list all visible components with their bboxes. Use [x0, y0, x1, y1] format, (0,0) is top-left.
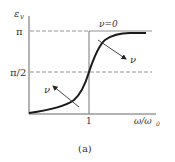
y-axis-label-sub: v: [20, 13, 24, 21]
upper-nu-arrow: [98, 40, 126, 59]
phase-chart: ε v π π/2 ν=0 ν ν 1 ω/ω 0 (a): [0, 0, 175, 162]
y-axis-label: ε: [14, 8, 19, 19]
x-axis-label-sub: 0: [156, 120, 160, 127]
x-tick-one-label: 1: [86, 116, 92, 126]
nu-zero-label: ν=0: [99, 19, 118, 29]
lower-nu-label: ν: [44, 84, 50, 95]
pi-half-tick-label: π/2: [10, 67, 26, 78]
x-axis-label: ω/ω: [134, 116, 152, 126]
phase-curve: [29, 33, 146, 113]
upper-nu-label: ν: [130, 54, 136, 65]
caption: (a): [78, 143, 92, 154]
pi-tick-label: π: [16, 26, 23, 37]
